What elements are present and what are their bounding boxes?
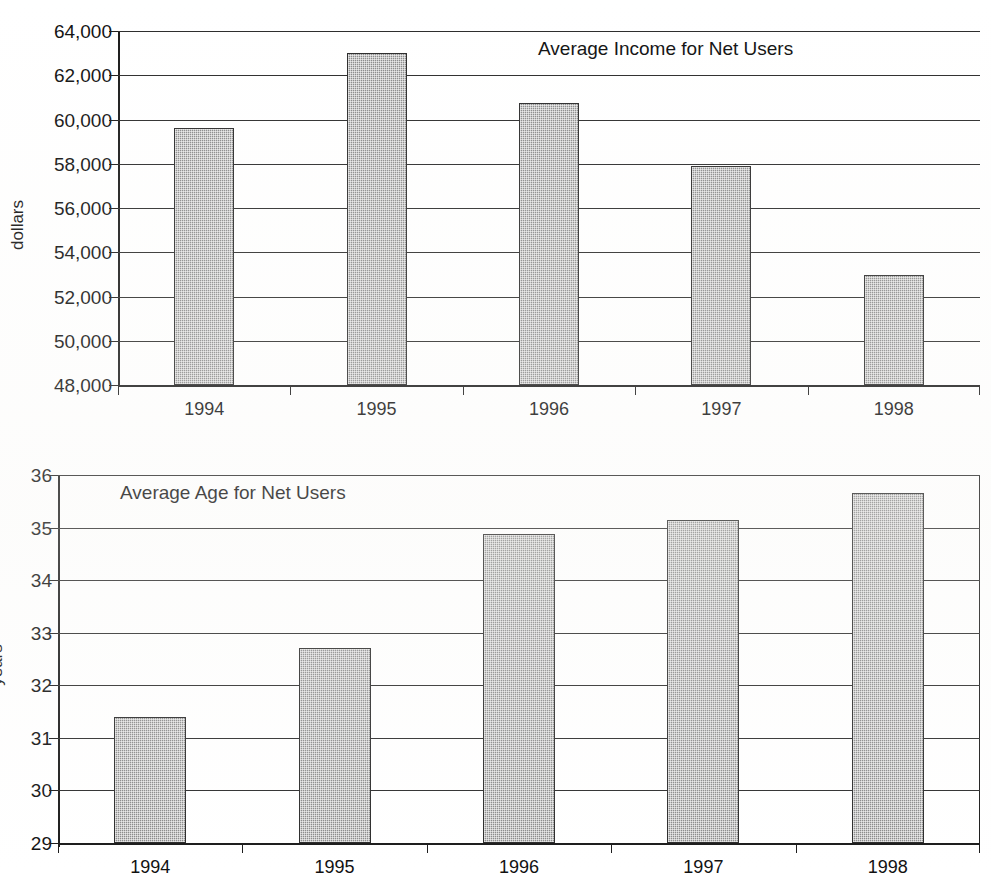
x-axis-line (58, 843, 980, 845)
x-axis-line (118, 385, 980, 387)
y-tick-mark (49, 843, 58, 844)
y-tick-label: 52,000 (54, 287, 112, 306)
y-tick-mark (109, 164, 118, 165)
gridline (58, 475, 980, 476)
y-tick-mark (109, 31, 118, 32)
y-tick-label: 54,000 (54, 243, 112, 262)
x-tick-label: 1998 (796, 857, 980, 877)
chart-average-income: dollars 64,00062,00060,00058,00056,00054… (0, 0, 991, 435)
x-tick-mark (242, 845, 243, 853)
x-tick-label: 1998 (808, 399, 980, 420)
y-tick-mark (109, 341, 118, 342)
y-axis-tick-labels-age: 3635343332313029 (0, 440, 52, 863)
x-tick-mark (635, 387, 636, 395)
x-tick-mark (979, 845, 980, 853)
x-tick-mark (463, 387, 464, 395)
y-tick-label: 56,000 (54, 199, 112, 218)
bar (347, 53, 407, 385)
x-tick-mark (796, 845, 797, 853)
y-tick-mark (109, 120, 118, 121)
y-tick-label: 62,000 (54, 66, 112, 85)
x-tick-mark (808, 387, 809, 395)
x-tick-mark (979, 387, 980, 395)
x-tick-label: 1995 (290, 399, 462, 420)
bar (519, 103, 579, 385)
bar (864, 275, 924, 385)
bar (691, 166, 751, 385)
y-tick-mark (109, 385, 118, 386)
y-tick-mark (49, 528, 58, 529)
x-tick-label: 1997 (635, 399, 807, 420)
y-axis-tick-labels-income: 64,00062,00060,00058,00056,00054,00052,0… (0, 0, 112, 405)
plot-area-age (58, 475, 980, 843)
x-tick-mark (290, 387, 291, 395)
x-tick-label: 1994 (58, 857, 242, 877)
bar (299, 648, 371, 843)
x-tick-mark (611, 845, 612, 853)
x-tick-mark (58, 845, 59, 853)
y-tick-mark (109, 297, 118, 298)
plot-area-income (118, 31, 980, 385)
x-tick-label: 1995 (242, 857, 426, 877)
chart-title-age: Average Age for Net Users (120, 482, 346, 504)
y-tick-mark (109, 75, 118, 76)
y-tick-mark (49, 685, 58, 686)
x-tick-mark (427, 845, 428, 853)
gridline (118, 31, 980, 32)
bar (667, 520, 739, 843)
y-tick-label: 64,000 (54, 22, 112, 41)
y-tick-mark (109, 252, 118, 253)
bar (174, 128, 234, 385)
x-tick-label: 1996 (427, 857, 611, 877)
gridline (58, 528, 980, 529)
bar (483, 534, 555, 843)
y-tick-mark (49, 475, 58, 476)
x-tick-mark (118, 387, 119, 395)
y-tick-mark (49, 790, 58, 791)
bar (114, 717, 186, 843)
y-tick-mark (109, 208, 118, 209)
gridline (118, 75, 980, 76)
y-tick-label: 50,000 (54, 331, 112, 350)
y-tick-label: 48,000 (54, 376, 112, 395)
x-tick-label: 1996 (463, 399, 635, 420)
y-tick-label: 60,000 (54, 110, 112, 129)
bar (852, 493, 924, 843)
y-tick-mark (49, 633, 58, 634)
chart-title-income: Average Income for Net Users (538, 38, 793, 60)
chart-average-age: years 3635343332313029 19941995199619971… (0, 440, 991, 871)
y-tick-label: 58,000 (54, 154, 112, 173)
y-tick-mark (49, 580, 58, 581)
y-tick-mark (49, 738, 58, 739)
x-tick-label: 1997 (611, 857, 795, 877)
x-tick-label: 1994 (118, 399, 290, 420)
